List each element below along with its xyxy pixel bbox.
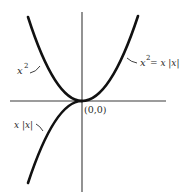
label-x-abs-x: x |x| <box>14 120 43 131</box>
pointer-x-squared <box>30 66 40 73</box>
label-x-squared-base: x <box>17 65 23 76</box>
origin-label: (0,0) <box>84 104 107 115</box>
curve-x-squared-left <box>28 17 82 101</box>
label-x-squared-eq: x 2 = x |x| <box>127 54 179 69</box>
pointer-x-squared-eq <box>127 58 137 63</box>
label-x-squared-sup: 2 <box>24 62 28 70</box>
label-x-abs-x-text: x |x| <box>14 120 33 131</box>
function-graph: x 2 x 2 = x |x| x |x| (0,0) <box>0 0 184 196</box>
label-x-squared-eq-rest: = x |x| <box>150 58 179 69</box>
pointer-x-abs-x <box>36 124 43 131</box>
label-x-squared: x 2 <box>17 62 40 76</box>
curve-x-squared-right <box>82 16 138 101</box>
curve-x-abs-x-left <box>28 101 82 183</box>
